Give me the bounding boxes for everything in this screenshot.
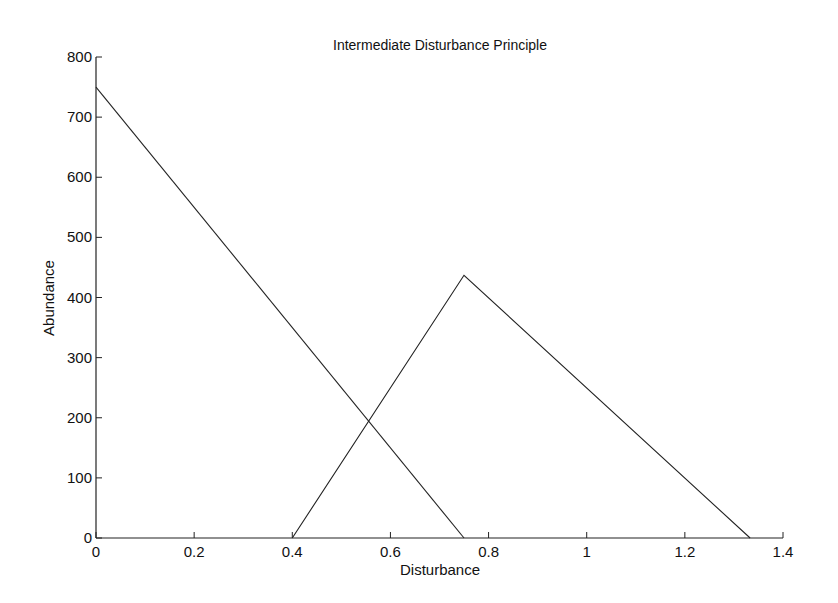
y-tick-label: 800 — [67, 48, 92, 65]
series-line-1 — [96, 87, 464, 538]
x-tick-label: 1.4 — [773, 543, 794, 560]
y-axis-label: Abundance — [40, 260, 57, 336]
x-tick-label: 0.8 — [478, 543, 499, 560]
x-tick-label: 1 — [583, 543, 591, 560]
y-tick-label: 700 — [67, 108, 92, 125]
y-tick-label: 600 — [67, 168, 92, 185]
x-tick-label: 0.6 — [380, 543, 401, 560]
y-tick-label: 300 — [67, 349, 92, 366]
x-tick-label: 0.2 — [184, 543, 205, 560]
chart: Intermediate Disturbance Principle 00.20… — [0, 0, 838, 603]
y-tick-label: 400 — [67, 289, 92, 306]
x-axis-label: Disturbance — [400, 561, 480, 578]
x-tick-label: 0.4 — [282, 543, 303, 560]
series-group — [96, 87, 750, 538]
x-tick-label: 0 — [92, 543, 100, 560]
x-tick-label: 1.2 — [674, 543, 695, 560]
axes: 00.20.40.60.811.21.401002003004005006007… — [67, 48, 793, 560]
y-tick-label: 200 — [67, 409, 92, 426]
y-tick-label: 500 — [67, 228, 92, 245]
y-tick-label: 0 — [84, 529, 92, 546]
series-line-2 — [292, 275, 750, 538]
chart-title: Intermediate Disturbance Principle — [333, 37, 547, 53]
y-tick-label: 100 — [67, 469, 92, 486]
